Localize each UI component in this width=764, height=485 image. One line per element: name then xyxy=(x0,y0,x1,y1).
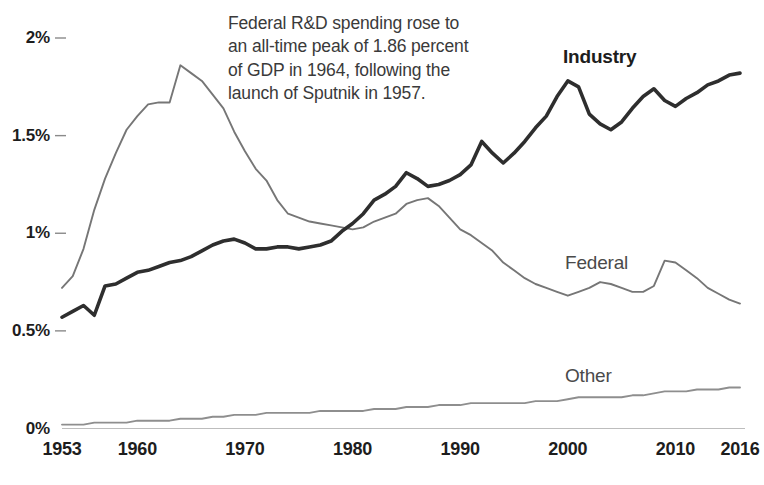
x-tick-label: 2000 xyxy=(528,440,608,458)
y-tick-marks xyxy=(55,38,66,331)
series-label-industry: Industry xyxy=(563,47,636,66)
chart-annotation: Federal R&D spending rose to an all-time… xyxy=(228,12,496,105)
x-tick-label: 1970 xyxy=(205,440,285,458)
annotation-line: of GDP in 1964, following the xyxy=(228,59,496,82)
x-tick-label: 1980 xyxy=(313,440,393,458)
x-tick-label: 1960 xyxy=(97,440,177,458)
y-tick-label: 0% xyxy=(0,420,50,437)
series-label-federal: Federal xyxy=(565,253,628,272)
y-tick-label: 1% xyxy=(0,224,50,241)
y-tick-label: 1.5% xyxy=(0,127,50,144)
annotation-line: Federal R&D spending rose to xyxy=(228,12,496,35)
x-tick-label: 1990 xyxy=(420,440,500,458)
series-layer xyxy=(62,65,740,424)
series-line-industry xyxy=(62,73,740,317)
x-tick-label: 1953 xyxy=(22,440,102,458)
annotation-line: launch of Sputnik in 1957. xyxy=(228,82,496,105)
annotation-line: an all-time peak of 1.86 percent xyxy=(228,35,496,58)
x-tick-label: 2016 xyxy=(700,440,764,458)
y-tick-label: 0.5% xyxy=(0,322,50,339)
y-tick-label: 2% xyxy=(0,29,50,46)
series-line-other xyxy=(62,388,740,425)
series-label-other: Other xyxy=(565,366,612,385)
